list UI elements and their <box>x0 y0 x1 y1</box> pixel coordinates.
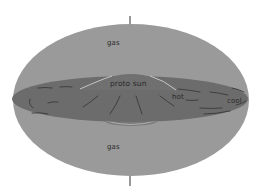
label-proto-sun: proto sun <box>110 80 147 88</box>
label-hot: hot <box>172 94 184 101</box>
label-gas-bottom: gas <box>107 144 120 151</box>
protoplanetary-disk-diagram: gas proto sun hot cool gas <box>0 0 260 194</box>
label-cool: cool <box>227 98 242 105</box>
label-gas-top: gas <box>107 40 120 47</box>
diagram-canvas <box>0 0 260 194</box>
